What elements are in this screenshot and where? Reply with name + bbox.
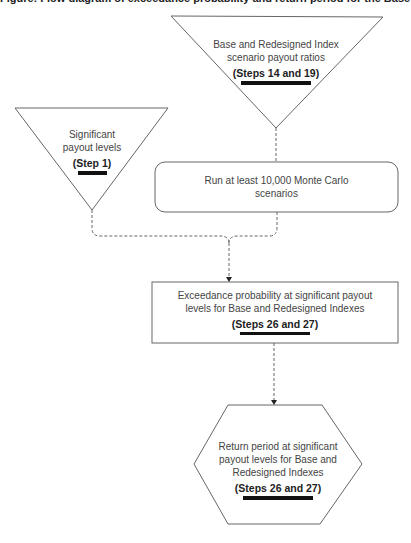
step-reference: (Steps 26 and 27) — [232, 318, 318, 331]
step-underline — [240, 332, 310, 335]
step-reference: (Steps 26 and 27) — [235, 482, 321, 495]
monte-carlo-label: Run at least 10,000 Monte Carlo scenario… — [155, 174, 398, 200]
node-text: Significant — [52, 128, 132, 141]
node-text: payout levels for Base and — [200, 453, 356, 466]
node-text: scenarios — [155, 187, 398, 200]
step-underline — [78, 171, 107, 175]
return-period-label: Return period at significant payout leve… — [200, 440, 356, 500]
significant-levels-label: Significant payout levels (Step 1) — [52, 128, 132, 175]
arrowhead-icon — [226, 277, 232, 282]
node-text: Base and Redesigned Index — [196, 38, 356, 51]
step-reference: (Step 1) — [73, 157, 112, 170]
node-text: Run at least 10,000 Monte Carlo — [155, 174, 398, 187]
scenario-payouts-label: Base and Redesigned Index scenario payou… — [196, 38, 356, 85]
step-reference: (Steps 14 and 19) — [233, 67, 319, 80]
connector-significant-to-junction — [92, 210, 229, 243]
node-text: payout levels — [52, 141, 132, 154]
step-underline — [243, 496, 313, 500]
node-text: Return period at significant — [200, 440, 356, 453]
node-text: levels for Base and Redesigned Indexes — [152, 302, 398, 315]
node-text: scenario payout ratios — [196, 51, 356, 64]
exceedance-label: Exceedance probability at significant pa… — [152, 289, 398, 335]
node-text: Redesigned Indexes — [200, 466, 356, 479]
node-text: Exceedance probability at significant pa… — [152, 289, 398, 302]
arrowhead-icon — [271, 400, 277, 405]
connector-montecarlo-to-junction — [229, 212, 277, 243]
step-underline — [241, 81, 311, 85]
